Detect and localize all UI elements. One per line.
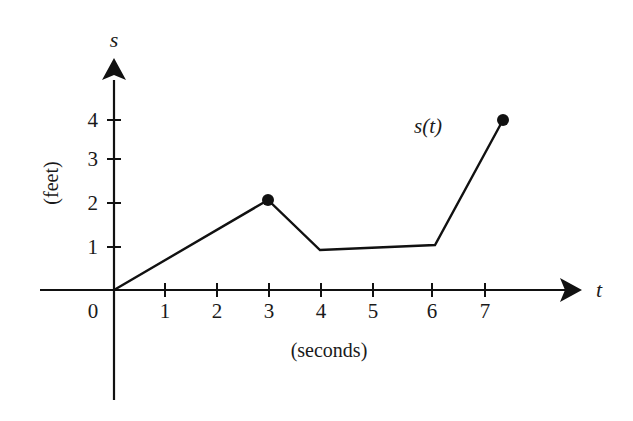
x-tick-label-4: 4 [316,299,327,323]
x-tick-label-5: 5 [368,299,379,323]
x-axis-unit-label: (seconds) [291,339,368,362]
x-axis-name: t [596,277,603,302]
y-axis-arrow-icon [102,58,126,80]
y-axis-name: s [110,27,119,52]
series-label: s(t) [414,114,442,138]
x-tick-label-2: 2 [212,299,223,323]
endpoint-dot-icon [262,194,274,206]
y-tick-label-3: 3 [88,147,99,171]
y-tick-label-1: 1 [88,235,99,259]
x-tick-label-3: 3 [264,299,275,323]
x-tick-label-6: 6 [427,299,438,323]
x-tick-label-7: 7 [480,299,491,323]
y-tick-label-2: 2 [88,191,99,215]
series-line-s-of-t [114,120,503,290]
x-tick-label-1: 1 [160,299,171,323]
position-time-chart: 1 2 3 4 0 1 2 3 4 5 6 7 s t (feet) (seco… [0,0,633,421]
endpoint-dot-icon [497,114,509,126]
y-axis-unit-label: (feet) [40,161,63,204]
y-tick-label-4: 4 [88,108,99,132]
origin-label: 0 [88,299,99,323]
